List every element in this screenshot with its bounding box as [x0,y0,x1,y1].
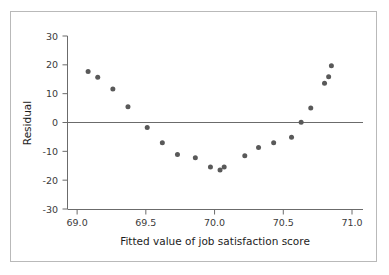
y-axis-tick-labels: 3020100-10-20-30 [42,31,58,215]
data-point [322,81,327,86]
data-point [222,164,227,169]
data-point [218,168,223,173]
data-point [125,104,130,109]
y-axis: 3020100-10-20-30 Residual [21,31,68,215]
x-tick-label: 69.0 [67,217,88,228]
x-axis-title: Fitted value of job satisfaction score [120,235,310,247]
data-point [326,74,331,79]
y-tick-label: -10 [42,146,58,157]
y-tick-label: 20 [46,59,58,70]
scatter-points [86,63,334,172]
y-tick-label: 0 [52,117,58,128]
data-point [329,63,334,68]
data-point [271,140,276,145]
x-axis-ticks [77,210,352,215]
x-tick-label: 70.5 [273,217,294,228]
y-axis-ticks [63,36,68,209]
data-point [145,125,150,130]
x-tick-label: 71.0 [341,217,362,228]
y-tick-label: -20 [42,175,58,186]
x-axis-tick-labels: 69.069.570.070.571.0 [67,217,363,228]
data-point [95,75,100,80]
y-tick-label: 10 [46,88,58,99]
y-tick-label: -30 [42,204,58,215]
y-axis-title: Residual [21,101,33,145]
x-tick-label: 70.0 [204,217,225,228]
data-point [289,135,294,140]
data-point [308,106,313,111]
x-axis: 69.069.570.070.571.0 Fitted value of job… [67,210,363,248]
data-point [110,87,115,92]
data-point [299,120,304,125]
data-point [86,69,91,74]
data-point [208,164,213,169]
data-point [242,153,247,158]
data-point [175,152,180,157]
x-tick-label: 69.5 [135,217,156,228]
data-point [256,145,261,150]
data-point [193,155,198,160]
data-point [160,140,165,145]
y-tick-label: 30 [46,31,58,42]
scatter-plot-canvas: 3020100-10-20-30 Residual 69.069.570.070… [0,0,389,275]
residual-plot-figure: 3020100-10-20-30 Residual 69.069.570.070… [0,0,389,275]
